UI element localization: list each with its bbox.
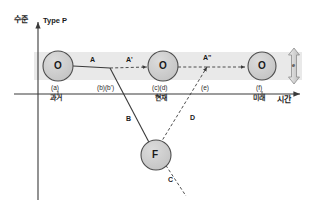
segment-a-prime-label: A' — [126, 56, 133, 63]
node-f-label: F — [152, 150, 158, 160]
tick-a-label: (a) — [51, 85, 59, 92]
segment-a-label: A — [90, 56, 95, 63]
node-o-present-label: O — [159, 61, 167, 71]
figure-title: Type P — [43, 17, 67, 25]
tick-f-sub: 미래 — [253, 94, 265, 101]
range-arrow-label: e — [292, 63, 295, 69]
tick-cd-sub: 현재 — [155, 94, 167, 101]
node-o-future-label: O — [258, 61, 266, 71]
tick-b-label: (b)(b') — [97, 85, 114, 92]
tick-a-sub: 과거 — [50, 94, 62, 101]
segment-a-dprime-label: A" — [203, 54, 211, 61]
tick-cd-label: (c)(d) — [152, 85, 168, 92]
node-o-past-label: O — [54, 61, 62, 71]
tick-f-label: (f) — [256, 85, 262, 92]
tick-e-label: (e) — [201, 85, 209, 92]
segment-b-label: B — [126, 115, 131, 122]
x-axis-label: 시간 — [277, 96, 291, 104]
segment-c-label: C — [168, 176, 173, 183]
segment-d-label: D — [190, 114, 195, 121]
diagram-root: 수준 Type P 시간 O O O F (a) 과거 (b)(b') (c)(… — [0, 0, 313, 205]
y-axis-label: 수준 — [14, 16, 28, 24]
diagram-canvas — [0, 0, 313, 205]
